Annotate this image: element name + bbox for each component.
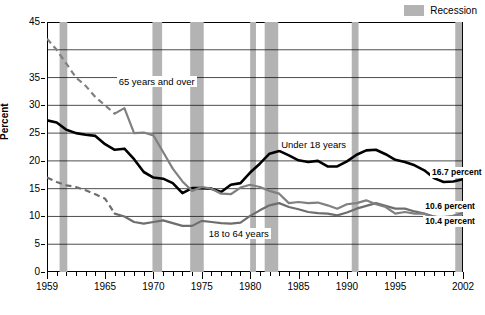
x-tick-label: 1980 (239, 282, 261, 292)
y-tick-label: 45 (29, 17, 40, 27)
x-tick-mark-minor (453, 272, 454, 276)
x-axis: 195919651970197519801985199019952002 (47, 272, 463, 302)
y-tick-label: 5 (34, 239, 40, 249)
x-tick-mark-minor (434, 272, 435, 276)
x-tick-mark-minor (173, 272, 174, 276)
x-tick-mark-minor (144, 272, 145, 276)
x-tick-mark-minor (211, 272, 212, 276)
y-tick-mark (41, 216, 45, 217)
x-tick-mark-minor (424, 272, 425, 276)
y-tick-label: 30 (29, 100, 40, 110)
x-tick-mark-minor (386, 272, 387, 276)
x-tick-label: 1965 (94, 282, 116, 292)
legend-label-recession: Recession (430, 5, 477, 16)
x-tick-label: 1985 (287, 282, 309, 292)
y-axis: Percent 4535302520151050 (0, 22, 45, 272)
y-tick-mark (41, 78, 45, 79)
x-tick-label: 1959 (36, 282, 58, 292)
series-line-dashed-1 (47, 178, 115, 214)
x-tick-mark-major (347, 272, 348, 279)
x-tick-mark-major (463, 272, 464, 279)
x-tick-mark-minor (270, 272, 271, 276)
x-tick-mark-minor (57, 272, 58, 276)
series-label-under18: Under 18 years (279, 139, 348, 150)
x-tick-mark-major (105, 272, 106, 279)
y-tick-label: 0 (34, 267, 40, 277)
x-tick-mark-minor (182, 272, 183, 276)
x-tick-mark-minor (415, 272, 416, 276)
x-tick-mark-minor (405, 272, 406, 276)
x-tick-mark-minor (279, 272, 280, 276)
y-tick-label: 10 (29, 211, 40, 221)
x-tick-label: 1975 (191, 282, 213, 292)
x-tick-mark-major (153, 272, 154, 279)
x-tick-mark-minor (115, 272, 116, 276)
chart-root: Recession Percent 4535302520151050 19591… (0, 0, 485, 315)
x-tick-label: 2002 (452, 282, 474, 292)
x-tick-mark-minor (444, 272, 445, 276)
x-tick-mark-minor (231, 272, 232, 276)
legend: Recession (402, 4, 479, 17)
x-tick-mark-minor (192, 272, 193, 276)
x-tick-mark-major (299, 272, 300, 279)
recession-band (352, 22, 359, 272)
series-label-over65: 65 years and over (117, 76, 197, 87)
y-tick-mark (41, 161, 45, 162)
x-tick-mark-minor (260, 272, 261, 276)
recession-swatch-icon (404, 5, 424, 16)
end-value-under18: 16.7 percent (430, 167, 484, 178)
x-tick-mark-minor (163, 272, 164, 276)
y-tick-mark (41, 22, 45, 23)
y-tick-label: 25 (29, 128, 40, 138)
x-tick-mark-minor (357, 272, 358, 276)
y-tick-mark (41, 272, 45, 273)
y-tick-label: 20 (29, 156, 40, 166)
y-tick-mark (41, 133, 45, 134)
x-tick-mark-minor (366, 272, 367, 276)
x-tick-mark-minor (328, 272, 329, 276)
x-tick-mark-minor (318, 272, 319, 276)
y-tick-mark (41, 105, 45, 106)
x-tick-mark-minor (289, 272, 290, 276)
x-tick-mark-minor (95, 272, 96, 276)
x-tick-label: 1995 (384, 282, 406, 292)
x-tick-mark-minor (240, 272, 241, 276)
end-value-adults: 10.6 percent (423, 201, 477, 212)
x-tick-mark-minor (76, 272, 77, 276)
x-tick-mark-minor (376, 272, 377, 276)
x-tick-mark-major (395, 272, 396, 279)
x-tick-mark-minor (337, 272, 338, 276)
x-tick-mark-minor (86, 272, 87, 276)
x-tick-label: 1990 (336, 282, 358, 292)
y-tick-mark (41, 244, 45, 245)
recession-band (60, 22, 68, 272)
y-tick-label: 15 (29, 184, 40, 194)
y-tick-label: 35 (29, 73, 40, 83)
series-label-adults: 18 to 64 years (207, 228, 271, 239)
x-tick-mark-minor (221, 272, 222, 276)
recession-band (190, 22, 204, 272)
y-tick-mark (41, 189, 45, 190)
x-tick-mark-minor (124, 272, 125, 276)
x-tick-mark-major (202, 272, 203, 279)
x-tick-mark-minor (308, 272, 309, 276)
y-axis-title: Percent (0, 103, 10, 140)
series-line-1 (115, 203, 463, 226)
end-value-over65: 10.4 percent (423, 216, 477, 227)
x-tick-label: 1970 (142, 282, 164, 292)
x-tick-mark-minor (134, 272, 135, 276)
recession-band (455, 22, 462, 272)
x-tick-mark-major (47, 272, 48, 279)
x-tick-mark-major (250, 272, 251, 279)
x-tick-mark-minor (66, 272, 67, 276)
